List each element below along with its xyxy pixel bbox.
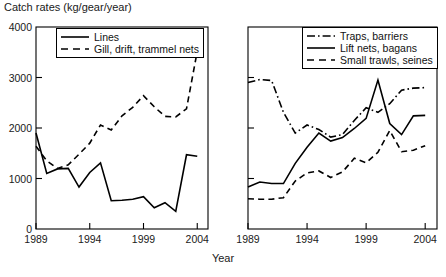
chart-figure: Catch rates (kg/gear/year) Year Lines Gi… bbox=[0, 0, 446, 277]
legend-item-small-trawls: Small trawls, seines bbox=[306, 54, 433, 66]
y-tick-label: 4000 bbox=[2, 21, 32, 33]
x-tick-label: 1994 bbox=[287, 233, 327, 245]
legend-item-traps: Traps, barriers bbox=[306, 30, 433, 42]
legend-item-lines: Lines bbox=[60, 31, 199, 43]
legend-label: Lines bbox=[94, 32, 119, 43]
x-tick-label: 1989 bbox=[16, 233, 56, 245]
y-tick-label: 2000 bbox=[2, 122, 32, 134]
legend-swatch-dashdot bbox=[306, 31, 336, 41]
series-line bbox=[248, 80, 425, 138]
series-line bbox=[36, 133, 197, 211]
y-tick-label: 3000 bbox=[2, 72, 32, 84]
legend-label: Small trawls, seines bbox=[340, 55, 433, 66]
series-line bbox=[248, 131, 425, 200]
x-tick-label: 1989 bbox=[228, 233, 268, 245]
legend-swatch-dashed bbox=[60, 44, 90, 54]
legend-label: Traps, barriers bbox=[340, 31, 408, 42]
legend-left-panel: Lines Gill, drift, trammel nets bbox=[56, 28, 204, 58]
series-line bbox=[36, 51, 197, 168]
x-tick-label: 1994 bbox=[70, 233, 110, 245]
x-tick-label: 1999 bbox=[346, 233, 386, 245]
legend-swatch-solid bbox=[306, 43, 336, 53]
y-axis-title: Catch rates (kg/gear/year) bbox=[4, 1, 132, 14]
series-line bbox=[248, 80, 425, 187]
legend-item-lift-nets: Lift nets, bagans bbox=[306, 42, 433, 54]
legend-swatch-dashed bbox=[306, 55, 336, 65]
legend-label: Gill, drift, trammel nets bbox=[94, 44, 199, 55]
legend-item-gill-nets: Gill, drift, trammel nets bbox=[60, 43, 199, 55]
legend-right-panel: Traps, barriers Lift nets, bagans Small … bbox=[302, 27, 438, 69]
x-tick-label: 2004 bbox=[177, 233, 217, 245]
y-tick-label: 1000 bbox=[2, 173, 32, 185]
x-tick-label: 1999 bbox=[124, 233, 164, 245]
legend-swatch-solid bbox=[60, 32, 90, 42]
legend-label: Lift nets, bagans bbox=[340, 43, 417, 54]
x-axis-title: Year bbox=[0, 252, 446, 264]
x-tick-label: 2004 bbox=[405, 233, 445, 245]
